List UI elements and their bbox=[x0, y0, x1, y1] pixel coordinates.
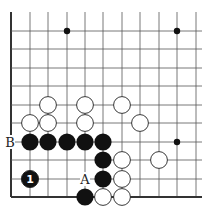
star-point-dot bbox=[64, 28, 70, 34]
move-number: 1 bbox=[26, 173, 34, 186]
white-stone bbox=[77, 97, 94, 114]
white-stone bbox=[151, 152, 168, 169]
stones: 1 bbox=[21, 97, 167, 206]
black-stone bbox=[76, 188, 93, 205]
white-stone bbox=[114, 97, 131, 114]
white-stone bbox=[22, 115, 39, 132]
white-stone bbox=[114, 171, 131, 188]
position-label-b: B bbox=[5, 135, 15, 150]
white-stone bbox=[95, 189, 112, 206]
black-stone bbox=[21, 133, 38, 150]
black-stone bbox=[94, 133, 111, 150]
white-stone bbox=[77, 115, 94, 132]
white-stone bbox=[114, 189, 131, 206]
white-stone bbox=[132, 115, 149, 132]
star-point-dot bbox=[174, 28, 180, 34]
position-label-a: A bbox=[79, 172, 90, 187]
white-stone bbox=[114, 152, 131, 169]
black-stone bbox=[76, 133, 93, 150]
black-stone bbox=[94, 170, 111, 187]
black-stone bbox=[39, 133, 56, 150]
black-stone bbox=[94, 151, 111, 168]
black-stone bbox=[58, 133, 75, 150]
white-stone bbox=[40, 115, 57, 132]
white-stone bbox=[40, 97, 57, 114]
go-board: 1 BA bbox=[0, 0, 202, 217]
star-point-dot bbox=[174, 139, 180, 145]
